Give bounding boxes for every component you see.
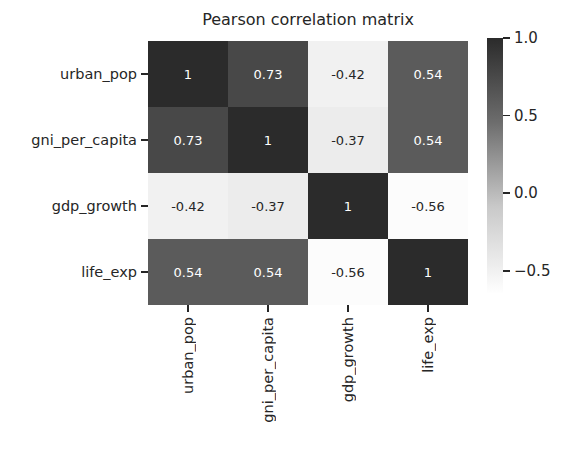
colorbar: [487, 38, 503, 294]
heatmap-cell: -0.37: [308, 107, 388, 173]
colorbar-tick-label: 0.5: [514, 107, 538, 125]
heatmap-cell: -0.42: [308, 41, 388, 107]
x-axis-tick-label: gdp_growth: [340, 317, 356, 402]
colorbar-gradient: [487, 38, 503, 294]
heatmap-cell-value: -0.56: [411, 200, 445, 213]
heatmap-cell: 0.54: [228, 239, 308, 305]
heatmap-cell: 1: [148, 41, 228, 107]
heatmap-cell-value: 1: [344, 200, 352, 213]
x-axis-tick-label: gni_per_capita: [260, 317, 276, 423]
x-axis-tick-mark: [267, 305, 269, 312]
heatmap-cell: 0.54: [148, 239, 228, 305]
heatmap-cell: 0.54: [388, 41, 468, 107]
x-axis-tick-mark: [187, 305, 189, 312]
x-axis-tick-mark: [347, 305, 349, 312]
colorbar-tick-label: −0.5: [514, 262, 550, 280]
heatmap-cell-value: 0.54: [174, 266, 203, 279]
y-axis-tick-label: life_exp: [81, 264, 137, 280]
heatmap-cell-value: 1: [424, 266, 432, 279]
y-axis-tick-label: gni_per_capita: [31, 132, 137, 148]
heatmap-cell-value: 1: [264, 134, 272, 147]
colorbar-tick-label: 1.0: [514, 29, 538, 47]
heatmap-cell: 1: [388, 239, 468, 305]
x-axis-tick-mark: [427, 305, 429, 312]
colorbar-tick-mark: [503, 270, 510, 272]
colorbar-tick-label: 0.0: [514, 184, 538, 202]
heatmap-cell-value: -0.37: [251, 200, 285, 213]
heatmap-cell-value: 0.54: [414, 68, 443, 81]
heatmap-cell-value: -0.42: [331, 68, 365, 81]
heatmap-cell-value: 0.54: [254, 266, 283, 279]
heatmap-cell: 1: [308, 173, 388, 239]
heatmap-cell-value: 0.54: [414, 134, 443, 147]
heatmap-cell: -0.56: [388, 173, 468, 239]
heatmap-cell-value: 1: [184, 68, 192, 81]
heatmap-cell: -0.37: [228, 173, 308, 239]
heatmap-grid: 10.73-0.420.540.731-0.370.54-0.42-0.371-…: [148, 41, 468, 305]
heatmap-cell-value: -0.42: [171, 200, 205, 213]
colorbar-tick-mark: [503, 115, 510, 117]
colorbar-tick-mark: [503, 192, 510, 194]
y-axis: urban_popgni_per_capitagdp_growthlife_ex…: [0, 41, 148, 305]
correlation-matrix-figure: Pearson correlation matrix 10.73-0.420.5…: [0, 0, 568, 466]
colorbar-tick-labels: 1.00.50.0−0.5: [503, 38, 567, 294]
heatmap-cell: -0.56: [308, 239, 388, 305]
y-axis-tick-mark: [141, 139, 148, 141]
page-title: Pearson correlation matrix: [148, 10, 468, 29]
x-axis-tick-label: life_exp: [420, 317, 436, 373]
colorbar-tick-mark: [503, 37, 510, 39]
y-axis-tick-label: gdp_growth: [52, 198, 137, 214]
heatmap-cell: -0.42: [148, 173, 228, 239]
heatmap-cell: 0.54: [388, 107, 468, 173]
heatmap-cell-value: -0.37: [331, 134, 365, 147]
heatmap-cell: 0.73: [148, 107, 228, 173]
heatmap-cell: 0.73: [228, 41, 308, 107]
y-axis-tick-label: urban_pop: [60, 66, 137, 82]
y-axis-tick-mark: [141, 73, 148, 75]
heatmap-cell-value: 0.73: [254, 68, 283, 81]
heatmap-cell: 1: [228, 107, 308, 173]
x-axis: urban_popgni_per_capitagdp_growthlife_ex…: [148, 305, 468, 455]
y-axis-tick-mark: [141, 271, 148, 273]
heatmap-cell-value: 0.73: [174, 134, 203, 147]
heatmap-cell-value: -0.56: [331, 266, 365, 279]
x-axis-tick-label: urban_pop: [180, 317, 196, 394]
y-axis-tick-mark: [141, 205, 148, 207]
